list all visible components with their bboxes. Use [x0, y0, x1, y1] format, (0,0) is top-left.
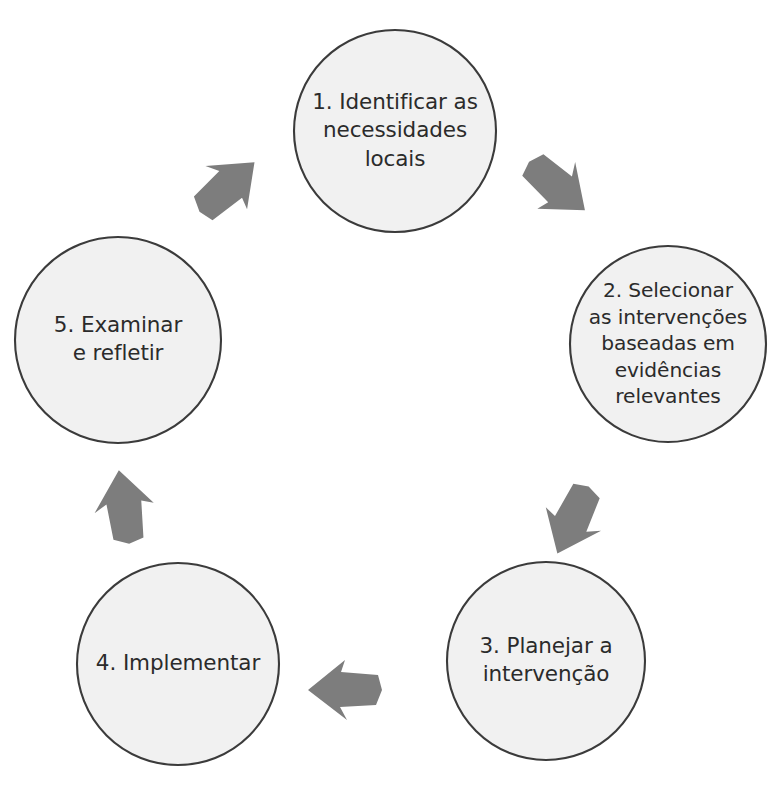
node-label-line: locais: [365, 146, 426, 171]
node-label-line: 3. Planejar a: [479, 633, 612, 658]
node-label-line: intervenção: [483, 661, 610, 686]
node-label-line: 5. Examinar: [54, 312, 183, 337]
node-layer: 1. Identificar asnecessidadeslocais2. Se…: [15, 30, 766, 765]
arrow-shape: [89, 466, 159, 548]
node-label-line: baseadas em: [601, 331, 735, 355]
cycle-node-step-2[interactable]: 2. Selecionaras intervençõesbaseadas eme…: [570, 246, 766, 442]
node-label-line: 4. Implementar: [96, 650, 261, 675]
node-label-line: necessidades: [323, 117, 467, 142]
cycle-node-step-3[interactable]: 3. Planejar aintervenção: [447, 562, 645, 760]
arrow-5-to-1-icon: [179, 140, 274, 234]
cycle-diagram-canvas: 1. Identificar asnecessidadeslocais2. Se…: [0, 0, 773, 792]
cycle-node-step-5[interactable]: 5. Examinare refletir: [15, 237, 221, 443]
node-label: 4. Implementar: [96, 650, 261, 675]
arrow-3-to-4-icon: [308, 660, 382, 720]
node-label-line: evidências: [615, 357, 722, 381]
node-label-line: 1. Identificar as: [312, 89, 477, 114]
node-label-line: relevantes: [615, 384, 720, 408]
arrow-4-to-5-icon: [89, 466, 159, 548]
arrow-2-to-3-icon: [530, 474, 616, 566]
arrow-shape: [308, 660, 382, 720]
node-label-line: as intervenções: [589, 304, 747, 328]
arrow-shape: [509, 139, 604, 233]
cycle-node-step-4[interactable]: 4. Implementar: [77, 563, 279, 765]
arrow-shape: [179, 140, 274, 234]
arrow-1-to-2-icon: [509, 139, 604, 233]
node-label-line: 2. Selecionar: [603, 278, 734, 302]
arrow-shape: [530, 474, 616, 566]
cycle-node-step-1[interactable]: 1. Identificar asnecessidadeslocais: [294, 30, 496, 232]
node-label-line: e refletir: [73, 340, 164, 365]
cycle-diagram: 1. Identificar asnecessidadeslocais2. Se…: [0, 0, 773, 792]
